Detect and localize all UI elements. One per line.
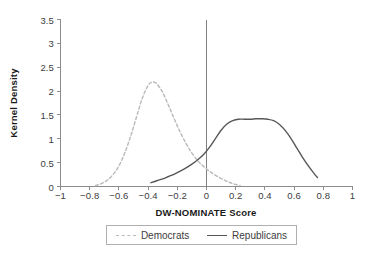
y-tick-label: 0.5: [28, 157, 54, 168]
y-axis-label: Kernel Density: [8, 68, 19, 137]
kernel-density-chart: 00.511.522.533.5−1−0.8−0.6−0.4−0.200.20.…: [0, 0, 372, 259]
series-line-republicans: [151, 119, 317, 183]
y-tick-label: 1: [28, 133, 54, 144]
x-tick-label: −0.6: [109, 190, 128, 201]
y-tick-label: 1.5: [28, 109, 54, 120]
x-tick-label: 0: [204, 190, 209, 201]
y-tick-label: 2: [28, 86, 54, 97]
chart-legend: DemocratsRepublicans: [106, 225, 297, 245]
legend-line-swatch-icon: [116, 235, 136, 236]
legend-entry: Republicans: [207, 230, 287, 241]
x-tick-label: −0.4: [139, 190, 158, 201]
y-tick-label: 3: [28, 38, 54, 49]
x-tick-label: 0.8: [317, 190, 331, 201]
y-tick-label: 0: [28, 181, 54, 192]
x-tick-label: 1: [350, 190, 355, 201]
legend-entry: Democrats: [116, 230, 189, 241]
x-tick-label: −0.2: [168, 190, 187, 201]
x-tick-label: −1: [55, 190, 66, 201]
y-tick-label: 2.5: [28, 62, 54, 73]
plot-area: [0, 0, 372, 259]
y-tick-label: 3.5: [28, 14, 54, 25]
axes: [57, 20, 353, 191]
x-tick-label: 0.4: [258, 190, 272, 201]
x-tick-label: 0.2: [229, 190, 243, 201]
x-axis-label: DW-NOMINATE Score: [155, 207, 256, 218]
legend-label: Democrats: [141, 230, 189, 241]
legend-label: Republicans: [232, 230, 287, 241]
x-tick-label: 0.6: [287, 190, 301, 201]
legend-line-swatch-icon: [207, 235, 227, 236]
x-tick-label: −0.8: [80, 190, 99, 201]
